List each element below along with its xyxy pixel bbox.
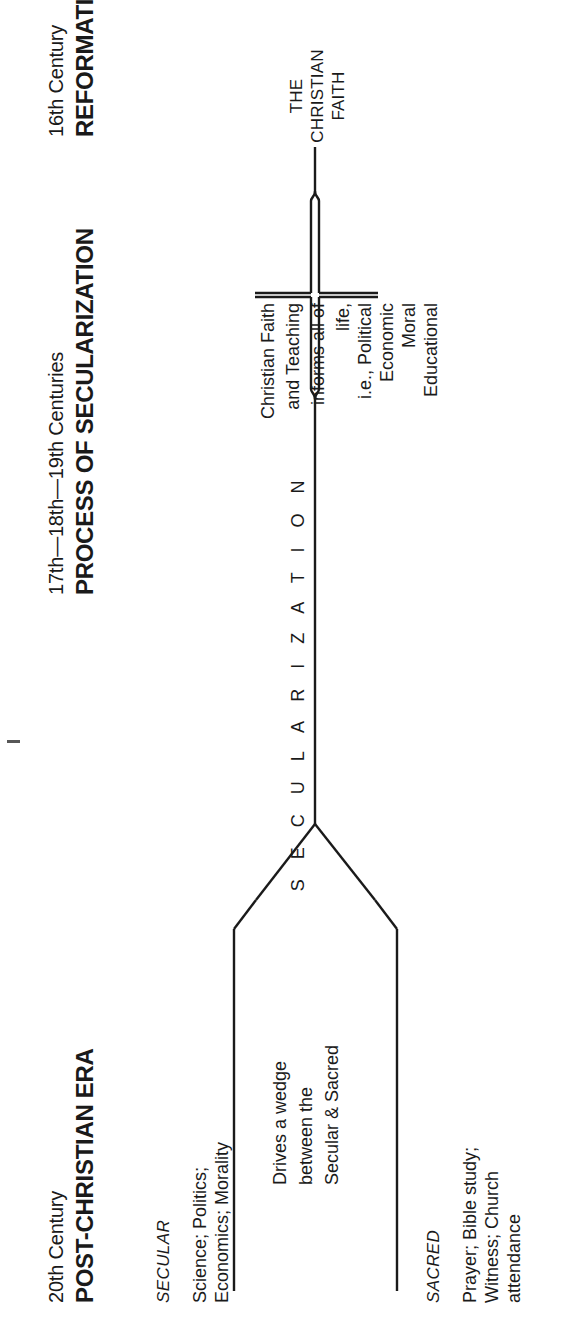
era-name-secularization: PROCESS OF SECULARIZATION [70,228,99,595]
wedge-shoulder-upper [234,900,256,929]
secularization-axis-label: S E C U L A R I Z A T I O N [288,473,310,891]
wedge-note-line-2: between the [296,1087,318,1185]
sacred-items-line-1: Prayer; Bible study; [460,1147,482,1303]
root-label-line-3: FAITH [329,71,350,120]
scan-artifact-speck [7,740,20,743]
brace-text-line-5: i.e., Political [355,303,377,399]
era-period-post-christian: 20th Century [44,1191,68,1303]
era-period-secularization: 17th—18th—19th Centuries [44,352,68,595]
wedge-edge-lower [315,824,375,900]
brace-text-line-2: and Teaching [283,303,305,410]
brace-text-line-1: Christian Faith [258,303,280,419]
sacred-heading: SACRED [424,1230,445,1303]
wedge-note-line-3: Secular & Sacred [322,1045,344,1185]
brace-text-line-6: Economic [377,303,399,382]
brace-text-line-3: informs all of [308,303,330,405]
era-period-reformation: 16th Century [44,25,68,137]
wedge-shoulder-lower [375,900,397,929]
secular-heading: SECULAR [154,1220,175,1303]
brace-text-line-4: life, [333,303,355,331]
brace-text-line-7: Moral [399,303,421,348]
secular-items-line-2: Economics; Morality [212,1142,234,1303]
root-label-line-2: CHRISTIAN [308,49,329,142]
era-name-reformation: REFORMATION ERA [70,0,99,137]
brace-text-line-8: Educational [421,303,443,397]
root-label-line-1: THE [287,79,308,114]
sacred-items-line-2: Witness; Church [482,1171,504,1303]
sacred-items-line-3: attendance [504,1214,526,1303]
wedge-note-line-1: Drives a wedge [270,1061,292,1185]
brace-upper-arm [315,191,319,293]
diagram-canvas: 16th Century REFORMATION ERA THE CHRISTI… [0,0,572,1343]
brace-lower-arm [311,191,315,293]
secular-items-line-1: Science; Politics; [190,1167,212,1303]
era-name-post-christian: POST-CHRISTIAN ERA [70,1048,99,1303]
